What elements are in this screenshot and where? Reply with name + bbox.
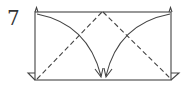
valley-fold-line-right bbox=[103, 12, 171, 79]
origami-diagram bbox=[0, 0, 187, 91]
valley-fold-line-left bbox=[37, 12, 102, 79]
bottom-right-flap bbox=[171, 73, 179, 80]
fold-arrow-left bbox=[37, 14, 101, 76]
fold-arrow-right bbox=[106, 14, 170, 76]
bottom-left-flap bbox=[28, 73, 35, 80]
top-right-corner-tip bbox=[169, 8, 172, 13]
top-left-corner-tip bbox=[35, 8, 38, 13]
